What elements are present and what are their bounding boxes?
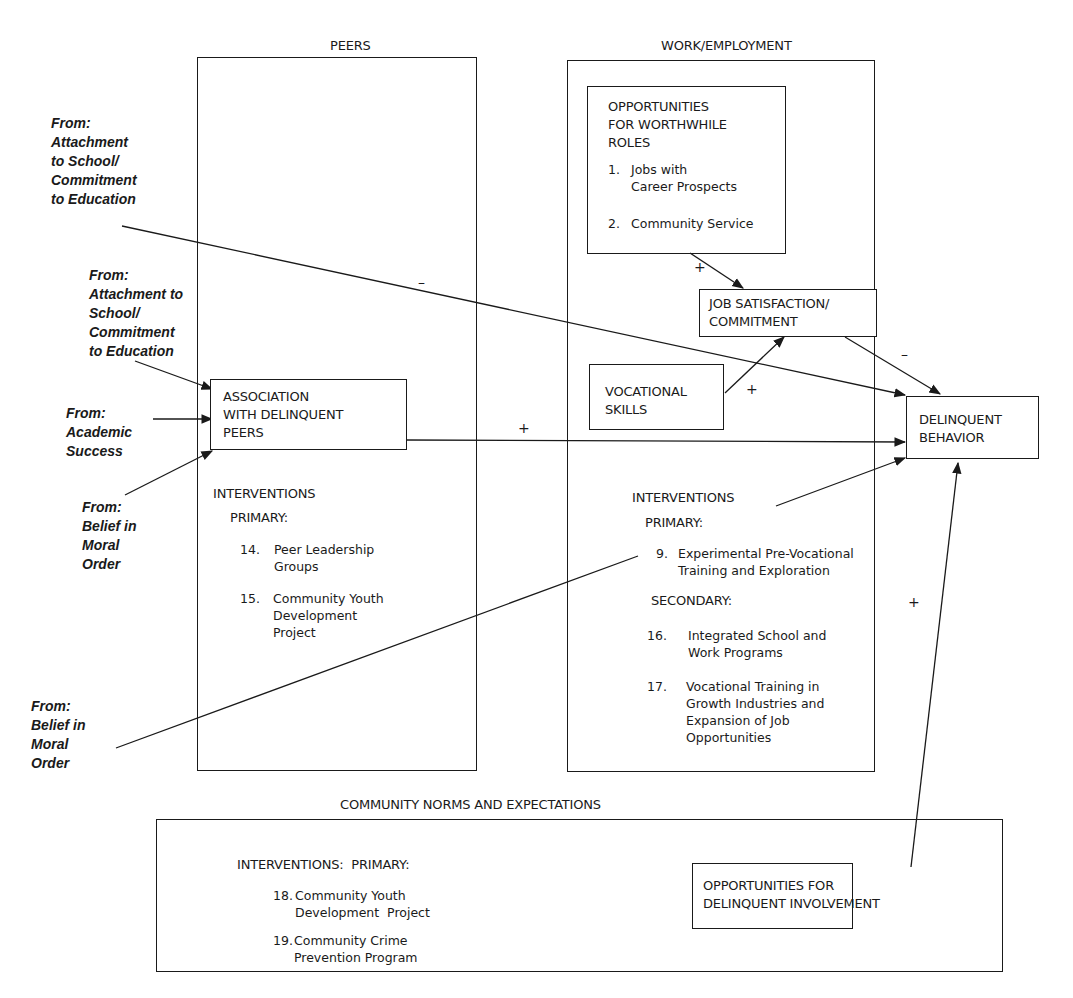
delinquent-involvement-node: OPPORTUNITIES FOR DELINQUENT INVOLVEMENT (692, 863, 853, 929)
association-node-label: ASSOCIATION WITH DELINQUENT PEERS (223, 388, 343, 442)
job-satisfaction-label: JOB SATISFACTION/ COMMITMENT (709, 295, 829, 331)
input-belief-moral-order-1: From: Belief in Moral Order (82, 498, 136, 574)
work-secondary-label: SECONDARY: (651, 592, 732, 610)
delinquent-involvement-label: OPPORTUNITIES FOR DELINQUENT INVOLVEMENT (703, 877, 880, 913)
work-interventions-label: INTERVENTIONS (632, 489, 734, 507)
sign-community-to-behavior: + (908, 594, 920, 610)
work-section-title: WORK/EMPLOYMENT (661, 37, 792, 55)
job-satisfaction-node: JOB SATISFACTION/ COMMITMENT (699, 289, 877, 337)
sign-opportunities-to-job: + (694, 259, 706, 275)
peers-section-title: PEERS (330, 37, 371, 55)
input-belief-moral-order-2: From: Belief in Moral Order (31, 697, 85, 773)
worthwhile-roles-title: OPPORTUNITIES FOR WORTHWHILE ROLES (608, 98, 727, 152)
sign-job-to-behavior: – (901, 346, 908, 362)
association-delinquent-peers-node: ASSOCIATION WITH DELINQUENT PEERS (210, 379, 407, 450)
sign-peers-to-behavior: + (518, 420, 530, 436)
community-section-title: COMMUNITY NORMS AND EXPECTATIONS (340, 796, 601, 814)
input-academic-success: From: Academic Success (66, 404, 132, 461)
vocational-skills-label: VOCATIONAL SKILLS (605, 383, 687, 419)
peers-primary-label: PRIMARY: (230, 509, 288, 527)
worthwhile-roles-node: OPPORTUNITIES FOR WORTHWHILE ROLES 1. Jo… (587, 86, 786, 254)
sign-vocational-to-job: + (746, 381, 758, 397)
delinquent-behavior-node: DELINQUENT BEHAVIOR (906, 396, 1039, 459)
community-interventions-label: INTERVENTIONS: PRIMARY: (237, 856, 409, 874)
sign-school-to-behavior: – (418, 274, 425, 290)
delinquent-behavior-label: DELINQUENT BEHAVIOR (919, 411, 1002, 447)
work-primary-label: PRIMARY: (645, 514, 703, 532)
input-attachment-school-1: From: Attachment to School/ Commitment t… (51, 114, 137, 209)
vocational-skills-node: VOCATIONAL SKILLS (589, 364, 724, 430)
peers-interventions-label: INTERVENTIONS (213, 485, 315, 503)
input-attachment-school-2: From: Attachment to School/ Commitment t… (89, 266, 183, 361)
edge-community-to-behavior (911, 463, 958, 867)
